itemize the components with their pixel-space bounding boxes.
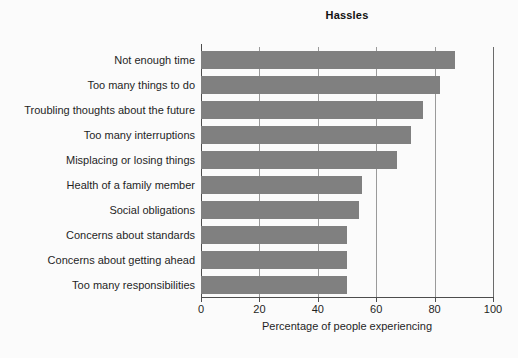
category-label: Not enough time [5, 54, 195, 66]
x-tick-label: 40 [312, 303, 324, 315]
bar-row [201, 226, 347, 244]
category-label: Troubling thoughts about the future [5, 104, 195, 116]
x-tick-mark [318, 297, 319, 302]
bar [201, 151, 397, 169]
x-tick-mark [201, 297, 202, 302]
x-tick-label: 100 [484, 303, 502, 315]
x-tick-label: 80 [428, 303, 440, 315]
bar [201, 176, 362, 194]
category-label: Too many responsibilities [5, 279, 195, 291]
category-label: Health of a family member [5, 179, 195, 191]
x-tick-mark [493, 297, 494, 302]
x-axis-line [201, 297, 494, 298]
bar [201, 226, 347, 244]
plot-area [201, 47, 493, 297]
x-tick-mark [435, 297, 436, 302]
bar-row [201, 251, 347, 269]
x-tick-label: 0 [198, 303, 204, 315]
chart-title: Hassles [201, 9, 493, 21]
chart-figure: Hassles Percentage of people experiencin… [0, 0, 518, 358]
bar-row [201, 276, 347, 294]
category-label: Too many interruptions [5, 129, 195, 141]
x-tick-mark [259, 297, 260, 302]
bar-row [201, 151, 397, 169]
bar [201, 76, 440, 94]
bar [201, 276, 347, 294]
bar-row [201, 76, 440, 94]
category-label: Too many things to do [5, 79, 195, 91]
bar-row [201, 101, 423, 119]
category-label: Concerns about getting ahead [5, 254, 195, 266]
bar-row [201, 51, 455, 69]
bar-row [201, 176, 362, 194]
bar [201, 201, 359, 219]
bar [201, 251, 347, 269]
x-tick-mark [376, 297, 377, 302]
bar-row [201, 126, 411, 144]
gridline [493, 47, 494, 297]
category-label: Social obligations [5, 204, 195, 216]
bar [201, 101, 423, 119]
bar-row [201, 201, 359, 219]
x-tick-label: 60 [370, 303, 382, 315]
bar [201, 126, 411, 144]
category-label: Misplacing or losing things [5, 154, 195, 166]
x-axis-title: Percentage of people experiencing [201, 320, 493, 332]
category-label: Concerns about standards [5, 229, 195, 241]
x-tick-label: 20 [253, 303, 265, 315]
bar [201, 51, 455, 69]
